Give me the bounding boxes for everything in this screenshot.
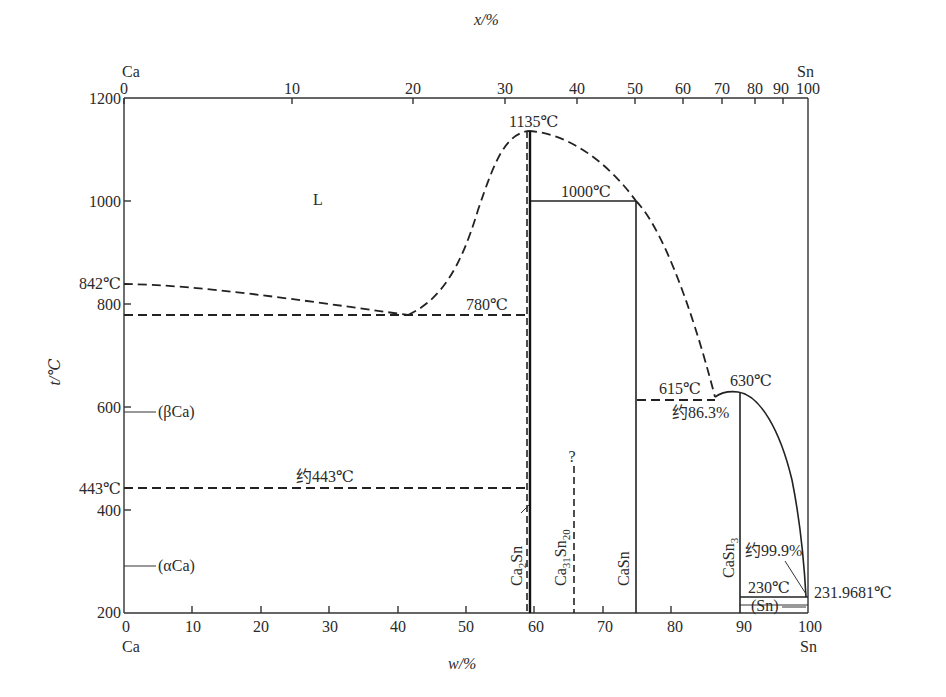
eutectoid-443-label: 约443℃: [296, 468, 354, 485]
top-axis: 0 10 20 30 40 50 60 70 80 90 100 Ca Sn x…: [120, 11, 820, 104]
plot-frame: [124, 98, 808, 613]
x-bottom-axis-title: w/%: [448, 655, 476, 672]
top-tick-90: 90: [773, 80, 789, 97]
y-tick-600: 600: [97, 399, 121, 416]
alpha-ca-label: (αCa): [158, 557, 195, 575]
bottom-axis: 0 10 20 30 40 50 60 70 80 90 100 Ca Sn w…: [122, 606, 822, 672]
casn-label: CaSn: [615, 551, 632, 586]
top-tick-50: 50: [627, 80, 643, 97]
eutectic-230-label: 230℃: [748, 579, 790, 596]
sn-phase-label: (Sn): [751, 597, 779, 615]
liquidus-curves: [124, 131, 715, 397]
plot-labels: L 1135℃ 1000℃ 780℃ 约443℃ 615℃ 约86.3% 630…: [296, 113, 892, 615]
y-tick-200: 200: [97, 604, 121, 621]
ca2sn-label: Ca2Sn: [508, 546, 528, 586]
phase-diagram: 0 10 20 30 40 50 60 70 80 90 100 Ca Sn x…: [0, 0, 946, 697]
top-tick-70: 70: [714, 80, 730, 97]
liquid-region-label: L: [313, 191, 323, 208]
bottom-tick-80: 80: [667, 618, 683, 635]
bottom-tick-60: 60: [528, 618, 544, 635]
eutectic-composition-label: 约86.3%: [672, 404, 729, 421]
top-tick-60: 60: [675, 80, 691, 97]
bottom-tick-90: 90: [736, 618, 752, 635]
y-axis: 1200 1000 800 600 400 200 842℃ 443℃ t/℃: [46, 90, 131, 621]
bottom-tick-30: 30: [322, 618, 338, 635]
bottom-tick-40: 40: [390, 618, 406, 635]
sn-eutectic-composition-label: 约99.9%: [745, 542, 802, 559]
y-tick-1200: 1200: [89, 90, 121, 107]
casn3-label: CaSn3: [720, 537, 740, 578]
bottom-tick-70: 70: [597, 618, 613, 635]
ca2sn-melting-label: 1135℃: [509, 113, 558, 130]
bottom-tick-50: 50: [458, 618, 474, 635]
isotherms: [124, 201, 808, 605]
x-top-axis-title: x/%: [473, 11, 499, 28]
peritectic-1000-label: 1000℃: [561, 183, 611, 200]
question-mark: ?: [568, 448, 575, 465]
bottom-tick-0: 0: [122, 618, 130, 635]
y-tick-800: 800: [97, 296, 121, 313]
compound-labels: Ca2Sn Ca31Sn20 CaSn CaSn3: [508, 505, 740, 586]
beta-ca-label: (βCa): [158, 403, 195, 421]
top-tick-0: 0: [120, 80, 128, 97]
transition-ca-label: 443℃: [79, 480, 121, 497]
bottom-tick-100: 100: [798, 618, 822, 635]
top-tick-10: 10: [284, 80, 300, 97]
ca-top-label: Ca: [122, 63, 140, 80]
eutectic-780-label: 780℃: [466, 296, 508, 313]
y-tick-1000: 1000: [89, 193, 121, 210]
melting-point-ca-label: 842℃: [79, 275, 121, 292]
ca-allotropes: (βCa) (αCa): [124, 403, 195, 575]
bottom-tick-10: 10: [185, 618, 201, 635]
sn-melting-label: 231.9681℃: [814, 584, 892, 601]
sn-bottom-label: Sn: [800, 638, 817, 655]
bottom-tick-20: 20: [253, 618, 269, 635]
y-axis-title: t/℃: [46, 359, 63, 386]
eutectic-615-label: 615℃: [659, 380, 701, 397]
top-tick-40: 40: [569, 80, 585, 97]
y-tick-400: 400: [97, 502, 121, 519]
ca31sn20-label: Ca31Sn20: [552, 529, 572, 586]
casn3-melting-label: 630℃: [730, 372, 772, 389]
top-tick-80: 80: [747, 80, 763, 97]
top-tick-100: 100: [796, 80, 820, 97]
sn-top-label: Sn: [797, 63, 814, 80]
top-tick-20: 20: [405, 80, 421, 97]
top-tick-30: 30: [497, 80, 513, 97]
ca-bottom-label: Ca: [122, 638, 140, 655]
